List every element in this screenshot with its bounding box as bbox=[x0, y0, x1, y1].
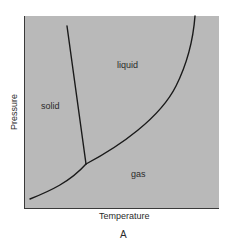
region-label-solid: solid bbox=[41, 102, 60, 111]
phase-boundary-curves bbox=[0, 0, 228, 241]
fusion-line bbox=[67, 26, 86, 164]
phase-diagram-figure: liquid solid gas Pressure Temperature A bbox=[0, 0, 228, 241]
sublimation-curve bbox=[30, 164, 86, 199]
region-label-gas: gas bbox=[131, 170, 146, 179]
figure-label: A bbox=[120, 230, 127, 240]
y-axis-label: Pressure bbox=[10, 94, 19, 130]
vaporization-curve bbox=[86, 16, 195, 164]
x-axis-label: Temperature bbox=[99, 212, 150, 221]
region-label-liquid: liquid bbox=[117, 61, 138, 70]
